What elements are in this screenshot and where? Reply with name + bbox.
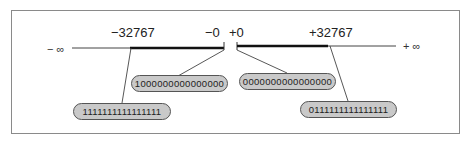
bit-pattern-pos-zero: 0000000000000000: [239, 73, 336, 90]
leader-min-neg: [122, 48, 131, 103]
pos-infinity-label: + ∞: [403, 41, 420, 52]
neg-infinity-label: − ∞: [47, 44, 64, 55]
leader-pos-zero: [237, 50, 287, 73]
leader-max-pos: [330, 46, 348, 101]
tick-label-pos-zero: +0: [229, 26, 244, 39]
bit-pattern-max-pos: 0111111111111111: [300, 101, 397, 118]
bit-pattern-min-neg: 1111111111111111: [73, 103, 171, 120]
leader-neg-zero: [178, 50, 224, 76]
bit-pattern-neg-zero: 1000000000000000: [131, 75, 228, 92]
tick-label-min-neg: −32767: [111, 26, 155, 39]
number-line-graphic: [0, 0, 470, 141]
tick-label-max-pos: +32767: [309, 26, 353, 39]
tick-label-neg-zero: −0: [205, 26, 220, 39]
